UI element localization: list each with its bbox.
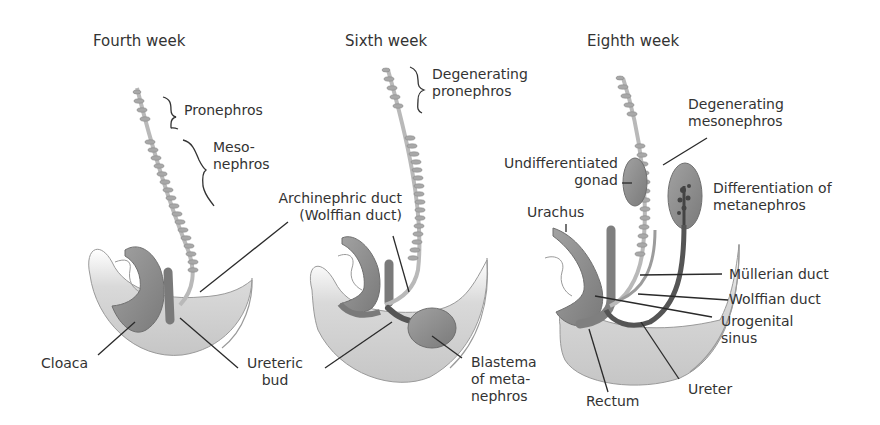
- label-blastema-line1: Blastema: [471, 354, 537, 371]
- panel-title-sixth-week: Sixth week: [345, 32, 427, 50]
- embryo-tissue: [310, 260, 487, 382]
- label-mullerian-duct: Müllerian duct: [729, 266, 829, 283]
- label-urachus: Urachus: [527, 204, 584, 221]
- panel-sixth-week-illustration: [310, 67, 487, 382]
- label-degenerating-mesonephros-line1: Degenerating: [688, 96, 784, 113]
- label-degenerating-pronephros-line2: pronephros: [432, 83, 511, 100]
- label-archinephric-duct-line1: Archinephric duct: [260, 190, 402, 207]
- label-mesonephros-line1: Meso-: [213, 139, 255, 156]
- label-urogenital-sinus-line2: sinus: [721, 330, 757, 347]
- label-wolffian-duct: Wolffian duct: [729, 291, 821, 308]
- label-ureter: Ureter: [688, 381, 732, 398]
- label-pronephros: Pronephros: [184, 102, 263, 119]
- leader-archinephric-duct-4wk: [200, 222, 288, 292]
- leader-wolffian-duct: [638, 294, 728, 300]
- label-differentiation-metanephros-line2: metanephros: [713, 197, 806, 214]
- label-archinephric-duct-line2: (Wolffian duct): [260, 207, 402, 224]
- blastema-shape: [408, 308, 456, 348]
- label-ureteric-bud-line1: Ureteric: [245, 355, 305, 372]
- leader-archinephric-duct-6wk: [393, 236, 409, 292]
- leader-mullerian-duct: [640, 274, 722, 275]
- label-cloaca: Cloaca: [41, 355, 88, 372]
- label-ureteric-bud-line2: bud: [245, 372, 305, 389]
- label-blastema-line2: of meta-: [471, 371, 530, 388]
- label-rectum: Rectum: [586, 393, 639, 410]
- label-urogenital-sinus-line1: Urogenital: [721, 313, 793, 330]
- brace-mesonephros: [183, 140, 214, 206]
- label-degenerating-mesonephros-line2: mesonephros: [688, 113, 783, 130]
- label-blastema-line3: nephros: [471, 388, 528, 405]
- gonad-shape: [623, 158, 647, 206]
- panel-title-eighth-week: Eighth week: [587, 32, 679, 50]
- label-degenerating-pronephros-line1: Degenerating: [432, 66, 528, 83]
- label-undifferentiated-gonad-line2: gonad: [480, 172, 618, 189]
- brace-pronephros: [163, 97, 178, 129]
- label-mesonephros-line2: nephros: [213, 156, 270, 173]
- leader-degenerating-mesonephros: [663, 138, 707, 165]
- label-undifferentiated-gonad-line1: Undifferentiated: [480, 155, 618, 172]
- bladder-urachus: [553, 228, 603, 326]
- panel-title-fourth-week: Fourth week: [93, 32, 186, 50]
- brace-degenerating-pronephros: [410, 67, 424, 113]
- label-differentiation-metanephros-line1: Differentiation of: [713, 180, 832, 197]
- panel-fourth-week-illustration: [0, 0, 288, 368]
